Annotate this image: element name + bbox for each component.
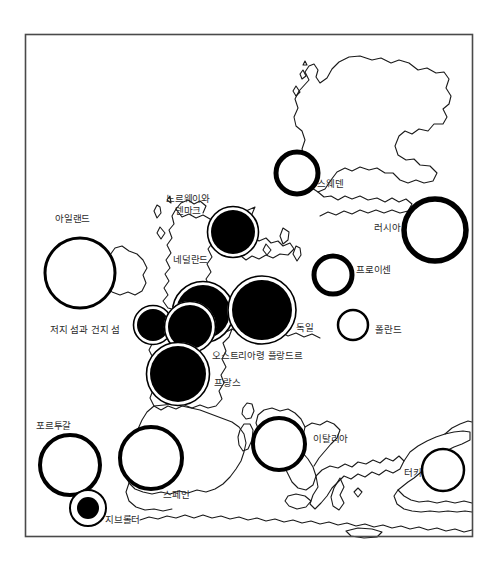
symbol-ring (314, 256, 352, 294)
coastline-anatolia-south (398, 490, 472, 503)
label-netherlands: 네덜란드 (173, 254, 208, 265)
symbol-ireland[interactable] (45, 238, 115, 308)
symbol-disc (211, 210, 255, 254)
coastline-gotland (280, 228, 289, 244)
coastline-greece-detail (331, 478, 344, 510)
symbol-ring (120, 427, 182, 489)
symbol-ring (338, 310, 368, 340)
symbol-portugal[interactable] (40, 435, 100, 495)
symbol-ring (276, 152, 318, 194)
symbol-ring (45, 238, 115, 308)
label-gibraltar: 지브롤터 (105, 514, 140, 525)
coastline-hebrides-b (157, 227, 165, 239)
label-norway-denmark: 노르웨이와 덴마크 (166, 193, 210, 217)
symbol-poland[interactable] (338, 310, 368, 340)
symbol-disc (77, 497, 99, 519)
label-ireland: 아일랜드 (55, 213, 90, 224)
label-spain: 스페인 (163, 489, 189, 500)
coastline-oland (293, 246, 301, 261)
symbol-russia[interactable] (404, 199, 466, 261)
symbol-norway-denmark[interactable] (207, 206, 259, 258)
symbol-italy[interactable] (253, 418, 305, 470)
coastline-sicily (285, 494, 311, 509)
symbol-ring (253, 418, 305, 470)
label-italy: 이탈리아 (313, 433, 348, 444)
symbol-ring (422, 449, 464, 491)
coastline-hebrides-a (154, 205, 161, 218)
coastline-islet-c (303, 61, 307, 65)
symbol-germany[interactable] (227, 275, 296, 344)
map-figure: 아일랜드노르웨이와 덴마크네덜란드저지 섬과 건지 섬오스트리아령 플랑드르프랑… (0, 0, 499, 568)
label-jersey-guernsey: 저지 섬과 건지 섬 (50, 324, 120, 335)
label-germany: 독일 (296, 322, 314, 333)
label-poland: 폴란드 (375, 324, 401, 335)
label-russia: 러시아 (374, 222, 400, 233)
coastline-islet-b (293, 86, 300, 96)
symbol-disc (232, 280, 292, 340)
map-canvas (0, 0, 499, 568)
symbol-ring (40, 435, 100, 495)
symbol-france[interactable] (146, 342, 210, 406)
coastline-corsica (242, 403, 254, 419)
coastline-baltic (318, 192, 412, 216)
label-sweden: 스웨덴 (317, 178, 343, 189)
coastline-north-africa (140, 515, 472, 532)
symbol-gibraltar[interactable] (70, 490, 106, 526)
coastline-balkans (310, 456, 404, 509)
symbol-spain[interactable] (120, 427, 182, 489)
symbol-prussia[interactable] (314, 256, 352, 294)
label-prussia: 프로이센 (356, 264, 391, 275)
symbol-disc (150, 346, 206, 402)
label-austrian-flanders: 오스트리아령 플랑드르 (212, 350, 303, 361)
coastline-aegean-islets (354, 488, 362, 497)
symbol-sweden[interactable] (276, 152, 318, 194)
label-portugal: 포르투갈 (36, 420, 71, 431)
label-turkey: 터키 (404, 467, 422, 478)
coastline-island-small (263, 244, 271, 255)
label-france: 프랑스 (214, 377, 240, 388)
symbol-ring (404, 199, 466, 261)
symbol-turkey[interactable] (422, 449, 464, 491)
